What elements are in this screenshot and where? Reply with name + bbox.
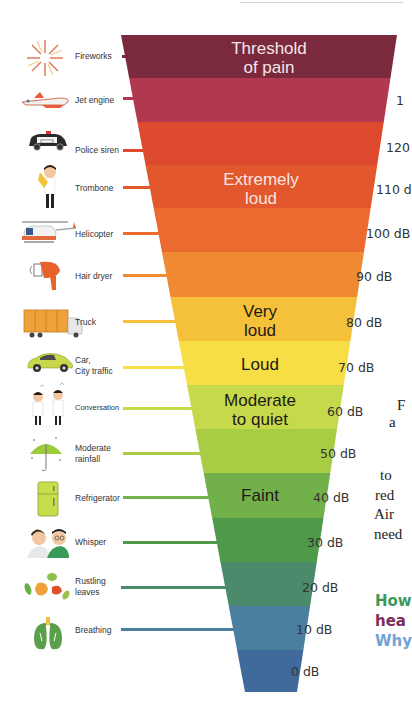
db-label-130: 1 — [396, 93, 404, 108]
db-label-100: 100 dB — [366, 226, 410, 241]
db-label-70: 70 dB — [338, 360, 374, 375]
article-link-why[interactable]: Why — [375, 632, 412, 650]
db-label-20: 20 dB — [302, 580, 338, 595]
source-breathing: Breathing — [0, 611, 160, 655]
db-label-50: 50 dB — [320, 446, 356, 461]
article-text-line: a — [389, 414, 396, 431]
band-label-moderate-to-quiet: Moderate to quiet — [210, 391, 310, 429]
band-label-extremely-loud: Extremely loud — [207, 170, 315, 208]
article-text-line: need — [374, 526, 402, 543]
source-rustling-leaves: Rustling leaves — [0, 568, 160, 612]
source-whisper: Whisper — [0, 523, 160, 567]
article-text-line: F — [397, 397, 405, 414]
source-jet-engine: Jet engine — [0, 80, 160, 124]
source-refrigerator: Refrigerator — [0, 479, 160, 523]
source-hair-dryer: Hair dryer — [0, 257, 160, 301]
db-label-0: 0 dB — [291, 664, 319, 679]
band-label-very-loud: Very loud — [220, 302, 300, 340]
source-trombone: Trombone — [0, 169, 160, 213]
source-car-city-traffic: Car, City traffic — [0, 345, 160, 389]
article-text-line: red — [375, 487, 394, 504]
db-label-90: 90 dB — [356, 269, 392, 284]
source-moderate-rainfall: Moderate rainfall — [0, 435, 160, 479]
article-link-hearing[interactable]: hea — [375, 612, 406, 630]
band-label-faint: Faint — [220, 486, 300, 505]
article-text-line: to — [380, 467, 392, 484]
source-conversation: Conversation — [0, 390, 160, 434]
article-link-how[interactable]: How — [375, 592, 412, 610]
db-label-120: 120 — [386, 140, 410, 155]
article-text-line: Air — [374, 506, 394, 523]
db-label-40: 40 dB — [313, 490, 349, 505]
db-label-30: 30 dB — [307, 535, 343, 550]
db-label-80: 80 dB — [346, 315, 382, 330]
band-label-loud: Loud — [220, 355, 300, 374]
band-label-threshold-of-pain: Threshold of pain — [214, 39, 324, 77]
source-truck: Truck — [0, 303, 160, 347]
source-fireworks: Fireworks — [0, 36, 160, 80]
db-label-60: 60 dB — [327, 404, 363, 419]
db-label-110: 110 d — [376, 182, 412, 197]
band-0 — [0, 650, 403, 692]
db-label-10: 10 dB — [296, 622, 332, 637]
source-helicopter: Helicopter — [0, 215, 160, 259]
